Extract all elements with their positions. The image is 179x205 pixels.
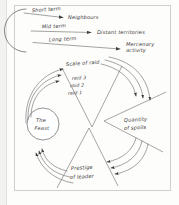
label-distant-territories: Distant territories <box>97 29 145 35</box>
label-raid-1: raid 1 <box>68 90 83 96</box>
arrow-mid-term <box>31 31 91 33</box>
arrow-prestige-feast-3 <box>42 149 67 171</box>
label-feast-line1: The <box>36 117 46 123</box>
arrow-scale-spoils-1 <box>101 64 136 96</box>
raid-cycle-section: Scale of raid raid 3 raid 2 raid 1 Quant… <box>26 57 166 188</box>
raid-cycle-figure: Short term Neighbours Mid term Distant t… <box>0 0 179 205</box>
arrow-short-term <box>24 13 63 18</box>
arrow-prestige-feast-2 <box>39 151 70 177</box>
label-feast-line2: Feast <box>35 125 50 131</box>
label-neighbours: Neighbours <box>68 14 99 21</box>
label-mercenary-line2: activity <box>126 47 147 54</box>
label-long-term: Long term <box>49 35 77 43</box>
label-raid-3: raid 3 <box>72 75 87 81</box>
arrow-scale-spoils-2 <box>105 60 143 98</box>
source-semicircle <box>4 9 26 52</box>
label-prestige-line2: of leader <box>70 173 95 180</box>
label-quantity-line2: of spoils <box>124 124 147 132</box>
figure-page: Short term Neighbours Mid term Distant t… <box>0 0 179 205</box>
label-mid-term: Mid term <box>42 22 66 29</box>
arrow-long-term <box>33 43 120 50</box>
node-the-feast <box>27 108 59 140</box>
label-raid-2: raid 2 <box>70 83 85 89</box>
top-fan-section: Short term Neighbours Mid term Distant t… <box>4 5 155 53</box>
arrows-prestige-to-feast <box>36 149 73 183</box>
arrows-spoils-to-prestige <box>107 138 148 174</box>
figure-frame <box>15 6 171 191</box>
arrow-scale-spoils-3 <box>109 57 150 100</box>
label-short-term: Short term <box>32 5 61 13</box>
label-scale-of-raid: Scale of raid <box>66 59 101 67</box>
label-prestige-line1: Prestige <box>71 164 93 172</box>
label-quantity-line1: Quantity <box>124 116 148 124</box>
